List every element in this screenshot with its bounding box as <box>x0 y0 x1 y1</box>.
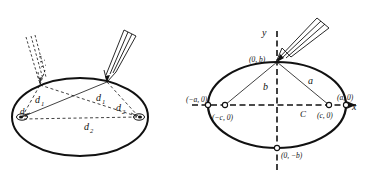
label-d1-right-sub: 1 <box>102 98 105 105</box>
label-d2-left-sub: 2 <box>25 112 28 118</box>
right-panel: y x C a b (−a, 0) (a, 0) (0, b) (0, −b) … <box>186 18 357 170</box>
label-semi-minor-b: b <box>263 81 268 92</box>
left-distance-labels: d 1 d 1 d 2 d 2 d 2 <box>20 92 126 134</box>
point-vertex-right <box>343 102 348 107</box>
figure-svg: d 1 d 1 d 2 d 2 d 2 <box>0 0 372 179</box>
label-vertex-right: (a, 0) <box>337 93 354 102</box>
focal-radius-left <box>225 62 277 105</box>
label-d2-lower-sub: 2 <box>90 127 94 134</box>
x-axis-label: x <box>351 101 357 112</box>
point-focus-left <box>222 102 227 107</box>
label-focus-left: (−c, 0) <box>212 113 233 122</box>
label-covertex-top: (0, b) <box>249 55 266 64</box>
label-semi-major-a: a <box>308 75 313 86</box>
figure-root: d 1 d 1 d 2 d 2 d 2 <box>0 0 372 179</box>
label-covertex-bottom: (0, −b) <box>281 151 303 160</box>
center-label: C <box>300 109 307 119</box>
y-axis-label: y <box>261 27 267 38</box>
pencil-at-covertex <box>277 18 329 60</box>
label-d1-left-sub: 1 <box>41 100 44 107</box>
left-panel: d 1 d 1 d 2 d 2 d 2 <box>12 30 148 156</box>
focal-radius-right <box>277 62 329 105</box>
label-focus-right: (c, 0) <box>317 111 333 120</box>
label-vertex-left: (−a, 0) <box>186 95 208 104</box>
label-d2-right-sub: 2 <box>122 108 126 115</box>
point-focus-right <box>326 102 331 107</box>
pencil-previous-dashed <box>26 35 46 85</box>
pencil-current-solid <box>104 30 136 82</box>
point-covertex-bottom <box>274 145 279 150</box>
